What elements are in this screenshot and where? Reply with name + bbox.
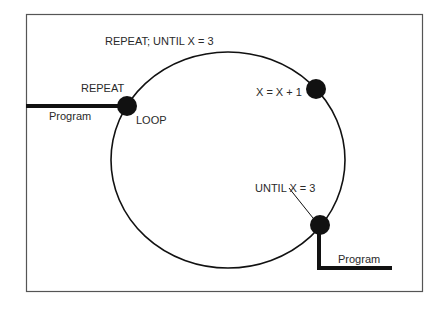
program-in-label: Program: [49, 110, 91, 122]
repeat-label: REPEAT: [81, 82, 124, 94]
increment-node: [306, 79, 326, 99]
program-out-label: Program: [338, 253, 380, 265]
until-label: UNTIL X = 3: [255, 182, 315, 194]
loop-node: [117, 96, 137, 116]
until-node: [310, 215, 330, 235]
loop-diagram: REPEAT; UNTIL X = 3 REPEAT Program LOOP …: [0, 0, 442, 310]
increment-label: X = X + 1: [256, 86, 302, 98]
diagram-title: REPEAT; UNTIL X = 3: [105, 35, 214, 47]
loop-label: LOOP: [136, 114, 167, 126]
diagram-frame: [27, 15, 423, 292]
